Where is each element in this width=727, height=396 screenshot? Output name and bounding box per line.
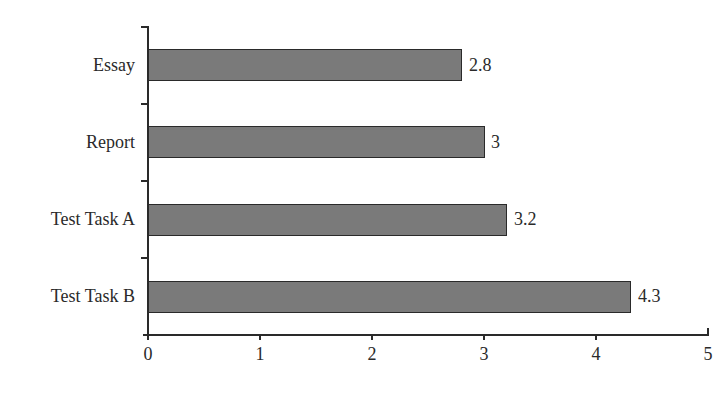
x-axis-tick <box>707 328 709 335</box>
category-label-report: Report <box>0 132 135 152</box>
x-axis <box>143 334 709 336</box>
x-tick-label: 4 <box>586 344 606 364</box>
category-label-test-task-a: Test Task A <box>0 209 135 229</box>
bar-test-task-a <box>148 204 507 236</box>
y-axis-tick <box>141 180 148 182</box>
x-axis-tick <box>371 334 373 340</box>
x-tick-label: 3 <box>474 344 494 364</box>
value-label-test-task-a: 3.2 <box>514 209 537 229</box>
bar-essay <box>148 49 462 81</box>
x-tick-label: 0 <box>138 344 158 364</box>
category-label-test-task-b: Test Task B <box>0 286 135 306</box>
x-tick-label: 2 <box>362 344 382 364</box>
x-tick-label: 5 <box>698 344 718 364</box>
y-axis-tick <box>141 257 148 259</box>
x-axis-tick <box>483 334 485 340</box>
x-axis-tick <box>147 334 149 340</box>
category-label-essay: Essay <box>0 55 135 75</box>
bar-test-task-b <box>148 281 631 313</box>
horizontal-bar-chart: 0 1 2 3 4 5 Essay Report Test Task A Tes… <box>0 0 727 396</box>
value-label-report: 3 <box>491 132 500 152</box>
x-axis-tick <box>259 334 261 340</box>
x-tick-label: 1 <box>250 344 270 364</box>
y-axis-tick <box>141 26 148 28</box>
x-axis-tick <box>595 334 597 340</box>
value-label-test-task-b: 4.3 <box>638 286 661 306</box>
bar-report <box>148 126 485 158</box>
y-axis-tick <box>141 103 148 105</box>
value-label-essay: 2.8 <box>469 55 492 75</box>
